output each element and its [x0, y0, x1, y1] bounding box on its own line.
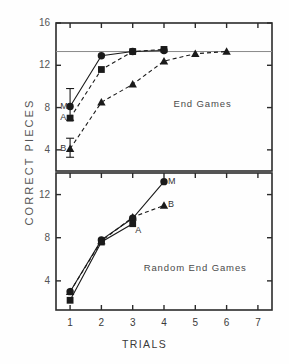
marker-bottom-a-t1	[67, 297, 74, 304]
figure-container: CORRECT PIECES TRIALS 161284End GamesMAB…	[0, 0, 289, 364]
panel-frame-bottom	[56, 173, 272, 310]
marker-top-a-t1	[67, 115, 74, 122]
x-tick-label-4: 4	[157, 317, 171, 328]
point-label-bottom-m: M	[168, 176, 176, 186]
x-tick-label-2: 2	[94, 317, 108, 328]
marker-top-m-t2	[98, 52, 105, 59]
marker-top-a-t3	[129, 48, 136, 55]
panel-note-bottom: Random End Games	[144, 262, 247, 273]
marker-top-b-t2	[97, 98, 105, 106]
marker-top-a-t4	[161, 46, 168, 53]
series-line-bottom-b	[70, 205, 164, 291]
marker-top-b-t3	[129, 80, 137, 88]
x-axis-title: TRIALS	[0, 338, 289, 350]
y-tick-label-top-8: 8	[28, 102, 50, 113]
x-tick-label-3: 3	[126, 317, 140, 328]
marker-top-b-t1	[66, 145, 74, 153]
plot-canvas	[0, 0, 289, 364]
y-tick-label-top-12: 12	[28, 59, 50, 70]
point-label-top-a: A	[60, 112, 66, 122]
marker-top-a-t2	[98, 66, 105, 73]
point-label-bottom-b: B	[168, 199, 174, 209]
marker-bottom-m-t4	[160, 178, 167, 185]
point-label-bottom-a: A	[135, 225, 141, 235]
series-line-top-m	[70, 51, 164, 107]
x-tick-label-6: 6	[220, 317, 234, 328]
y-tick-label-top-4: 4	[28, 144, 50, 155]
y-tick-label-bottom-8: 8	[28, 232, 50, 243]
series-line-bottom-a	[70, 224, 133, 301]
marker-top-b-t5	[191, 50, 199, 58]
panel-note-top: End Games	[173, 98, 231, 109]
point-label-top-m: M	[60, 101, 68, 111]
point-label-top-b: B	[60, 143, 66, 153]
y-tick-label-bottom-4: 4	[28, 275, 50, 286]
x-tick-label-1: 1	[63, 317, 77, 328]
panel-frame-top	[56, 23, 272, 171]
x-tick-label-7: 7	[251, 317, 265, 328]
y-tick-label-top-16: 16	[28, 17, 50, 28]
y-tick-label-bottom-12: 12	[28, 189, 50, 200]
x-tick-label-5: 5	[188, 317, 202, 328]
